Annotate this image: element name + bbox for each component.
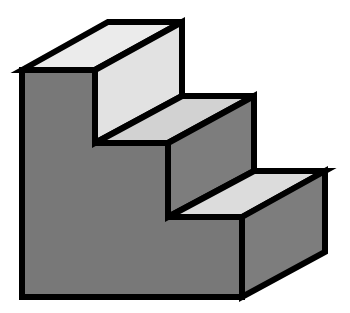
staircase-diagram bbox=[0, 0, 350, 313]
